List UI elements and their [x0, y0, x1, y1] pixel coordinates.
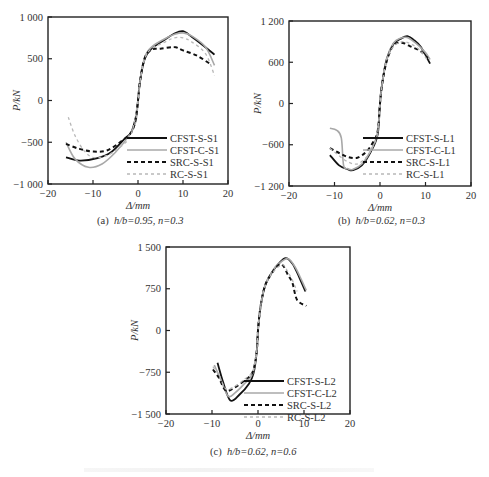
y-tick-label: −600 [262, 139, 284, 150]
legend-label: RC-S-L2 [287, 412, 326, 423]
legend-label: RC-S-S1 [170, 169, 208, 180]
y-tick-label: 1 500 [137, 242, 161, 253]
x-axis-label: Δ/mm [245, 430, 271, 441]
legend-label: SRC-S-L1 [406, 157, 450, 168]
x-tick-label: 0 [377, 190, 382, 201]
caption-b-prefix: (b) [338, 215, 350, 226]
y-tick-label: 0 [279, 98, 284, 109]
x-tick-label: −10 [85, 188, 101, 199]
legend-label: CFST-S-L2 [287, 376, 336, 387]
legend: CFST-S-L2CFST-C-L2SRC-S-L2RC-S-L2 [240, 374, 347, 423]
legend-label: CFST-S-L1 [406, 133, 455, 144]
x-tick-label: 10 [178, 188, 189, 199]
legend-label: RC-S-L1 [406, 169, 445, 180]
chart-a: −1 000−50005001 000−20−1001020Δ/mmP/kNCF… [11, 12, 233, 212]
legend-label: CFST-C-S1 [170, 145, 219, 156]
y-axis-label: P/kN [129, 319, 140, 342]
caption-b: (b) h/b=0.62, n=0.3 [338, 215, 425, 226]
caption-a-text: h/b=0.95, n=0.3 [114, 215, 184, 226]
caption-a: (a) h/b=0.95, n=0.3 [97, 215, 184, 226]
caption-c: (c) h/b=0.62, n=0.6 [210, 446, 297, 457]
x-tick-label: −10 [326, 190, 342, 201]
caption-a-prefix: (a) [97, 215, 109, 226]
y-tick-label: 600 [268, 57, 284, 68]
x-tick-label: −20 [40, 188, 56, 199]
y-tick-label: −1 200 [254, 181, 284, 192]
y-tick-label: 750 [145, 283, 161, 294]
legend: CFST-S-S1CFST-C-S1SRC-S-S1RC-S-S1 [123, 131, 225, 180]
chart-c: −1 500−75007501 500−20−1001020Δ/mmP/kNCF… [129, 242, 355, 442]
figure-canvas: −1 000−50005001 000−20−1001020Δ/mmP/kNCF… [0, 0, 489, 477]
y-tick-label: 1 200 [260, 16, 284, 27]
x-tick-label: −20 [281, 190, 297, 201]
y-tick-label: 0 [38, 95, 43, 106]
y-tick-label: 500 [27, 53, 43, 64]
x-tick-label: −10 [204, 418, 220, 429]
series-src-s-l2-line [213, 264, 306, 391]
legend-label: CFST-C-L2 [287, 388, 337, 399]
y-tick-label: −1 500 [131, 409, 161, 420]
legend-label: CFST-C-L1 [406, 145, 456, 156]
y-tick-label: −1 000 [13, 179, 43, 190]
y-axis-label: P/kN [252, 92, 263, 115]
y-tick-label: 1 000 [19, 12, 43, 23]
x-tick-label: 20 [466, 190, 477, 201]
x-tick-label: 0 [135, 188, 140, 199]
y-axis-label: P/kN [11, 89, 22, 112]
x-axis-label: Δ/mm [367, 202, 393, 213]
caption-c-text: h/b=0.62, n=0.6 [227, 446, 297, 457]
x-axis-label: Δ/mm [125, 200, 151, 211]
x-tick-label: −20 [158, 418, 174, 429]
y-tick-label: 0 [156, 325, 161, 336]
y-tick-label: −750 [139, 367, 161, 378]
faded-figure-caption [84, 468, 374, 472]
legend-label: SRC-S-L2 [287, 400, 331, 411]
chart-b: −1 200−60006001 200−20−1001020Δ/mmP/kNCF… [252, 16, 476, 214]
caption-c-prefix: (c) [210, 446, 222, 457]
legend-label: CFST-S-S1 [170, 133, 218, 144]
legend: CFST-S-L1CFST-C-L1SRC-S-L1RC-S-L1 [359, 131, 468, 180]
caption-b-text: h/b=0.62, n=0.3 [356, 215, 426, 226]
x-tick-label: 20 [223, 188, 234, 199]
x-tick-label: 10 [420, 190, 431, 201]
legend-label: SRC-S-S1 [170, 157, 214, 168]
y-tick-label: −500 [21, 137, 43, 148]
